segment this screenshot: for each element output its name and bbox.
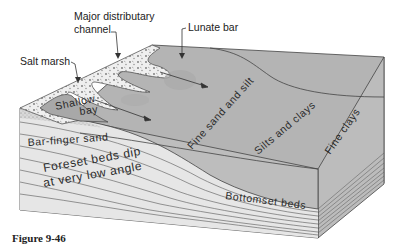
label-salt-marsh: Salt marsh bbox=[20, 55, 70, 67]
label-major-distributary: Major distributary bbox=[74, 10, 155, 22]
label-lunate-bar: Lunate bar bbox=[188, 21, 239, 33]
mouth-bar-stipple bbox=[121, 94, 149, 106]
figure-caption: Figure 9-46 bbox=[12, 232, 66, 244]
lunate-bar bbox=[164, 70, 196, 90]
label-channel: channel bbox=[74, 23, 111, 35]
delta-block-diagram: Major distributary channel Lunate bar Sa… bbox=[0, 0, 406, 248]
